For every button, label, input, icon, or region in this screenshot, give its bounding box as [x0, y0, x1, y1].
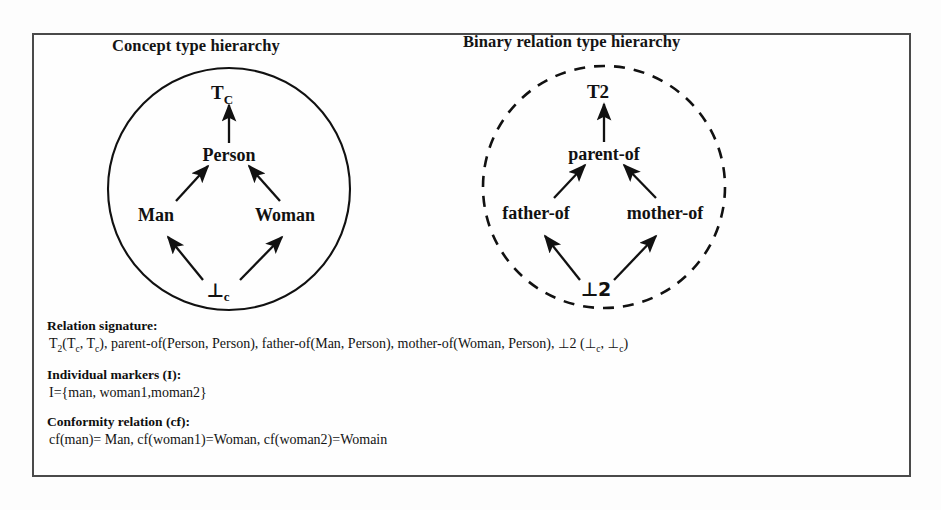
- conformity-relation-heading: Conformity relation (cf):: [47, 414, 897, 431]
- spacer-2: [47, 402, 897, 414]
- figure-root: Concept type hierarchy Binary relation t…: [0, 0, 941, 510]
- relation-signature-body: T2(Tc, Tc), parent-of(Person, Person), f…: [47, 335, 897, 355]
- individual-markers-heading: Individual markers (I):: [47, 367, 897, 384]
- spacer-1: [47, 355, 897, 367]
- individual-markers-body: I={man, woman1,moman2}: [47, 384, 897, 402]
- relation-signature-heading: Relation signature:: [47, 318, 897, 335]
- description-text-block: Relation signature: T2(Tc, Tc), parent-o…: [47, 318, 897, 449]
- panel-title-concept-type-hierarchy: Concept type hierarchy: [112, 36, 280, 56]
- panel-title-binary-relation-type-hierarchy: Binary relation type hierarchy: [463, 32, 680, 52]
- conformity-relation-body: cf(man)= Man, cf(woman1)=Woman, cf(woman…: [47, 431, 897, 449]
